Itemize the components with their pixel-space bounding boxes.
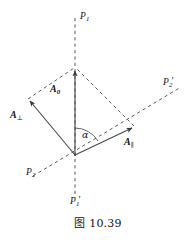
axis-label-p2-subscript: 2 [32, 171, 35, 178]
construction-line-right [76, 68, 134, 126]
axis-label-p1-prime-mark: ′ [78, 195, 80, 205]
axis-label-p1-prime: P1′ [70, 196, 80, 208]
vector-label-a0-subscript: 0 [57, 88, 61, 96]
angle-label-alpha: α [82, 130, 88, 140]
vector-label-a-parallel-symbol: A [124, 136, 131, 147]
vector-label-a-perp-symbol: A [10, 109, 17, 120]
vector-label-a-parallel: A∥ [124, 137, 134, 149]
vector-line-a-perp [30, 101, 75, 155]
figure-caption: 图 10.39 [0, 214, 196, 230]
axis-label-p2-prime: P2′ [163, 77, 173, 89]
axis-label-p1-prime-symbol: P [70, 196, 76, 206]
vector-label-a-perp: A⊥ [10, 110, 23, 122]
axis-label-p1-subscript: 1 [86, 15, 89, 22]
figure-container: P1 P1′ P2 P2′ A0 A⊥ A∥ α 图 10.39 [0, 0, 196, 240]
axis-label-p2-prime-mark: ′ [171, 76, 173, 86]
axis-label-p1: P1 [80, 12, 89, 23]
axis-label-p2: P2 [26, 168, 35, 179]
vector-label-a-perp-subscript: ⊥ [17, 114, 23, 121]
origin-point [74, 154, 76, 156]
vector-label-a0-symbol: A [50, 83, 57, 94]
vector-label-a-parallel-subscript: ∥ [131, 141, 134, 148]
axis-label-p2-prime-symbol: P [163, 77, 169, 87]
vector-label-a0: A0 [50, 84, 60, 96]
vector-diagram [0, 0, 196, 240]
axis-label-p2-symbol: P [26, 167, 32, 177]
axis-label-p1-symbol: P [80, 11, 86, 21]
